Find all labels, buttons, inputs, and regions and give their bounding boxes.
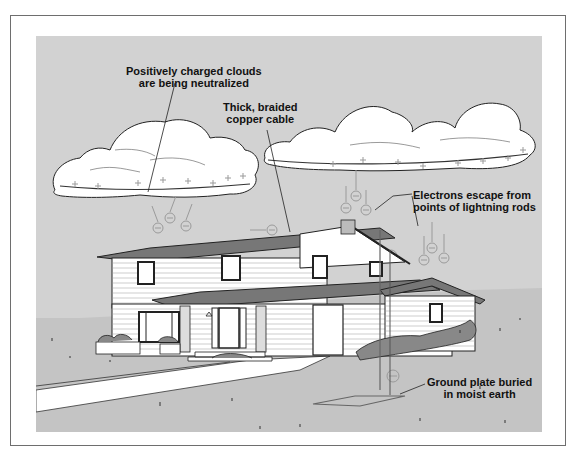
house-lightning-scene <box>36 36 542 432</box>
left-cloud <box>53 120 258 198</box>
label-electrons-escape: Electrons escape from points of lightnin… <box>413 189 536 213</box>
label-line: points of lightning rods <box>413 201 536 213</box>
label-ground-plate: Ground plate buried in moist earth <box>427 376 532 400</box>
label-line: Positively charged clouds <box>126 65 262 77</box>
label-line: Thick, braided <box>223 101 298 113</box>
label-line: in moist earth <box>427 388 532 400</box>
label-copper-cable: Thick, braided copper cable <box>223 101 298 125</box>
illustration-panel: Positively charged clouds are being neut… <box>36 36 542 432</box>
house <box>96 220 485 361</box>
chimney <box>341 220 355 234</box>
label-line: Ground plate buried <box>427 376 532 388</box>
label-line: copper cable <box>223 113 298 125</box>
label-clouds-neutralized: Positively charged clouds are being neut… <box>126 65 262 89</box>
label-line: Electrons escape from <box>413 189 536 201</box>
label-line: are being neutralized <box>126 77 262 89</box>
right-cloud <box>264 103 535 171</box>
